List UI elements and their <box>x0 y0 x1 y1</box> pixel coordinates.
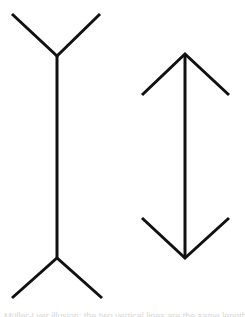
muller-lyer-figure <box>0 0 245 317</box>
left-line-fins-out <box>12 14 102 298</box>
right-line-arrowheads <box>142 54 229 258</box>
left-top-fin-icon <box>12 14 100 56</box>
figure-caption: Müller-Lyer illusion: the two vertical l… <box>4 310 245 317</box>
left-bottom-fin-icon <box>12 258 102 298</box>
illusion-canvas: Müller-Lyer illusion: the two vertical l… <box>0 0 245 317</box>
